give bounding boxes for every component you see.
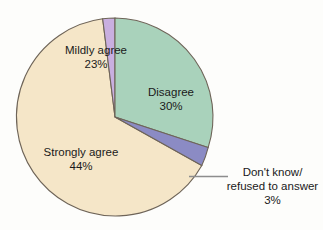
slice-callout-dont-know: Don't know/ refused to answer 3% bbox=[222, 165, 323, 207]
slice-callout-dont-know-line2: refused to answer bbox=[222, 179, 323, 193]
slice-callout-dont-know-line1: Don't know/ bbox=[222, 165, 323, 179]
slice-callout-dont-know-percent: 3% bbox=[222, 193, 323, 207]
pie-chart-figure: Disagree 30% Mildly agree 23% Strongly a… bbox=[0, 0, 323, 230]
